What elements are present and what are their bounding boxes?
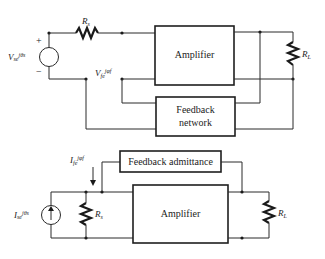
shunt-resistor-label: Rs [94,209,104,220]
series-resistor-icon [76,28,98,38]
minus-sign: − [36,66,42,77]
amplifier-label: Amplifier [175,49,215,60]
node-dot [120,31,123,34]
load-resistor-label-bottom: RL [277,208,288,219]
voltage-source-icon [40,48,59,67]
load-resistor-icon-bottom [264,201,274,223]
feedback-network-label-2: network [179,117,212,128]
shunt-resistor-icon [81,203,91,225]
feedback-current-arrow-icon [90,167,96,186]
feedback-current-label: Ifejφf [69,155,85,166]
feedback-admittance-label: Feedback admittance [128,156,213,167]
load-resistor-icon [288,42,298,65]
plus-sign: + [36,35,42,46]
feedback-circuit-diagrams: + − Vsejθs Rs Vfejφf Amplifier Feedback … [0,0,325,259]
node-dot [240,236,243,239]
current-source-icon [42,206,61,225]
feedback-network-label-1: Feedback [176,104,214,115]
source-current-label: Isejθs [13,210,30,220]
series-resistor-label: Rs [81,16,91,27]
node-dot [240,190,243,193]
source-voltage-label: Vsejθs [8,52,26,62]
amplifier-label-bottom: Amplifier [161,208,201,219]
feedback-voltage-label: Vfejφf [95,68,113,79]
load-resistor-label: RL [301,49,312,60]
top-circuit [40,26,299,136]
